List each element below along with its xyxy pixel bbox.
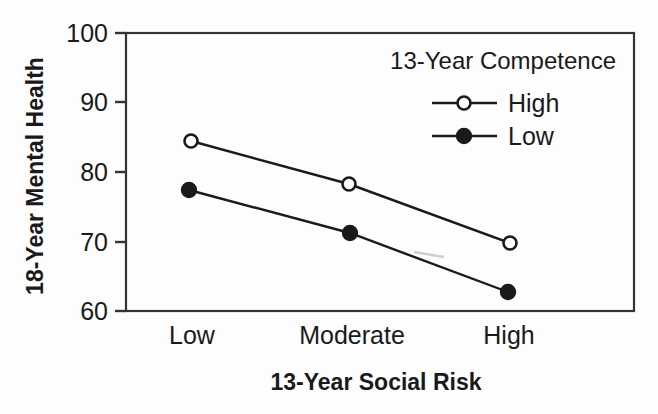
x-category-label-high: High (483, 321, 534, 349)
y-tick-label-70: 70 (80, 228, 108, 256)
legend: 13-Year Competence High Low (390, 47, 616, 150)
x-axis-title: 13-Year Social Risk (271, 369, 482, 395)
data-point-low-moderate (343, 226, 357, 240)
y-tick-label-90: 90 (80, 88, 108, 116)
y-axis-ticks (115, 33, 126, 311)
scan-artifact (414, 252, 444, 257)
legend-entry-low: Low (432, 122, 555, 150)
y-tick-label-100: 100 (66, 19, 108, 47)
data-point-high-high (504, 237, 517, 250)
x-category-label-moderate: Moderate (299, 321, 405, 349)
legend-label-low: Low (508, 122, 555, 150)
y-tick-label-60: 60 (80, 297, 108, 325)
data-point-high-moderate (343, 178, 356, 191)
legend-marker-open-circle-icon (458, 97, 471, 110)
data-point-low-high (501, 285, 515, 299)
data-point-high-low (185, 135, 198, 148)
line-chart-svg: 100 90 80 70 60 13-Year Competence (0, 0, 658, 414)
y-tick-label-80: 80 (80, 158, 108, 186)
legend-entry-high: High (432, 89, 559, 117)
legend-title: 13-Year Competence (390, 47, 616, 74)
chart-figure: 100 90 80 70 60 13-Year Competence (0, 0, 658, 414)
legend-label-high: High (508, 89, 559, 117)
data-point-low-low (182, 183, 196, 197)
legend-marker-filled-circle-icon (457, 129, 471, 143)
x-category-label-low: Low (169, 321, 216, 349)
plot-frame (126, 33, 634, 311)
y-axis-title: 18-Year Mental Health (22, 57, 48, 295)
